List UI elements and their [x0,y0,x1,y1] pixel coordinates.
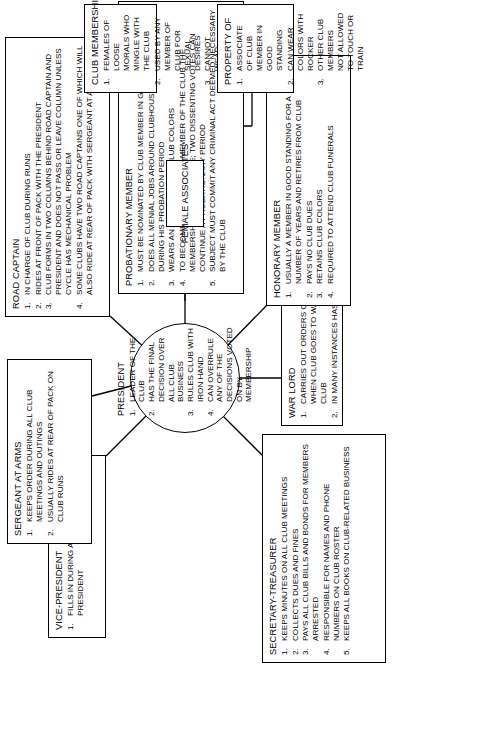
list-item: OTHER CLUB MEMBERS NOT ALLOWED TO TOUCH … [316,12,366,85]
node-sergeant-at-arms[interactable]: SERGEANT AT ARMS KEEPS ORDER DURING ALL … [7,359,92,544]
node-title: CLUB MEMBERSHIP [90,12,100,85]
node-items: KEEPS ORDER DURING ALL CLUB MEETINGS AND… [25,367,66,536]
list-item: ASSOCIATE OF CLUB MEMBER IN GOOD STANDIN… [235,12,285,85]
node-title: FEMALE ASSOCIATES [180,144,190,244]
node-club-membership[interactable]: CLUB MEMBERSHIP FEMALES OF LOOSE MORALS … [84,4,157,93]
node-items: USUALLY A MEMBER IN GOOD STANDING FOR A … [284,63,336,298]
list-item: IN CHARGE OF CLUB DURING RUNS [23,45,33,309]
list-item: COLLECTS DUES AND FINES [291,442,301,655]
node-title: ROAD CAPTAIN [11,45,21,309]
list-item: HAS THE FINAL DECISION OVER ALL CLUB BUS… [147,324,185,416]
node-property-of[interactable]: PROPERTY OF ASSOCIATE OF CLUB MEMBER IN … [217,4,294,93]
node-president[interactable]: PRESIDENT LEADER OF THE CLUB HAS THE FIN… [130,323,240,433]
list-item: CAN OVERRULE ANY OF THE DECISIONS VOTED … [206,324,254,416]
node-title: SERGEANT AT ARMS [13,367,23,536]
diagram-canvas: VICE-PRESIDENT FILLS IN DURING ABSENCE O… [0,0,486,756]
list-item: USED BY ANY MEMBER OF CLUB FOR SEXUAL DE… [153,12,203,85]
node-title: PROPERTY OF [223,12,233,85]
list-item: PAYS ALL CLUB BILLS AND BONDS FOR MEMBER… [301,442,321,655]
list-item: RETAINS CLUB COLORS [315,63,325,298]
list-item: CAN WEAR COLORS WITH ROCKER [286,12,316,85]
node-items: FEMALES OF LOOSE MORALS WHO MINGLE WITH … [102,12,233,85]
node-title: PRESIDENT [116,362,126,416]
rotation-wrapper: VICE-PRESIDENT FILLS IN DURING ABSENCE O… [0,0,486,756]
node-items: KEEPS MINUTES ON ALL CLUB MEETINGS COLLE… [280,442,352,655]
list-item: CLUB FORMS IN TWO COLUMNS BEHIND ROAD CA… [44,45,74,309]
list-item: USUALLY A MEMBER IN GOOD STANDING FOR A … [284,63,304,298]
node-items: LEADER OF THE CLUB HAS THE FINAL DECISIO… [128,324,255,416]
list-item: KEEPS ALL BOOKS ON CLUB-RELATED BUSINESS [342,442,352,655]
list-item: PAYS NO CLUB DUES [305,63,315,298]
link-vice-president [106,416,146,456]
list-item: FEMALES OF LOOSE MORALS WHO MINGLE WITH … [102,12,152,85]
list-item: RESPONSIBLE FOR NAMES AND PHONE NUMBERS … [322,442,342,655]
link-secretary-treasurer [223,416,263,456]
node-title: HONORARY MEMBER [272,63,282,298]
list-item: RULES CLUB WITH IRON HAND [186,324,205,416]
list-item: USUALLY RIDES AT REAR OF PACK ON CLUB RU… [46,367,66,536]
node-secretary-treasurer[interactable]: SECRETARY-TREASURER KEEPS MINUTES ON ALL… [262,434,386,663]
node-items: ASSOCIATE OF CLUB MEMBER IN GOOD STANDIN… [235,12,366,85]
list-item: KEEPS ORDER DURING ALL CLUB MEETINGS AND… [25,367,45,536]
node-female-associates[interactable]: FEMALE ASSOCIATES [166,160,204,227]
list-item: RIDES AT FRONT OF PACK WITH THE PRESIDEN… [34,45,44,309]
node-title: SECRETARY-TREASURER [268,442,278,655]
list-item: KEEPS MINUTES ON ALL CLUB MEETINGS [280,442,290,655]
diagram-stage: VICE-PRESIDENT FILLS IN DURING ABSENCE O… [0,0,486,756]
list-item: REQUIRED TO ATTEND CLUB FUNERALS [326,63,336,298]
list-item: LEADER OF THE CLUB [128,324,147,416]
